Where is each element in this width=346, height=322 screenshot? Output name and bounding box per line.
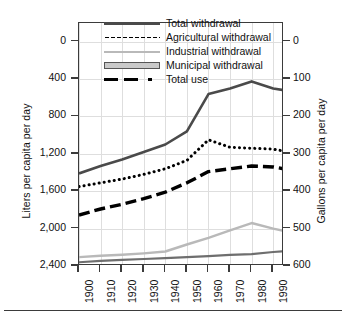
y-tick-label-right: 600 <box>293 258 311 270</box>
y-tick-mark <box>71 152 78 154</box>
series-line-industrial-withdrawal <box>79 223 283 257</box>
x-tick-mark <box>120 265 122 272</box>
legend-item: Agricultural withdrawal <box>104 31 271 44</box>
bottom-divider-rule <box>4 310 342 311</box>
x-tick-label: 1910 <box>105 280 117 303</box>
y-tick-mark <box>71 77 78 79</box>
y-tick-mark <box>71 189 78 191</box>
legend-swatch-filled-box-gray <box>104 60 160 71</box>
series-line-total-withdrawal <box>79 81 283 173</box>
legend-item: Total withdrawal <box>104 17 271 30</box>
legend-swatch-dashed-black <box>104 74 160 85</box>
legend-swatch-mark <box>104 62 160 69</box>
y-tick-label-left: 800 <box>10 108 66 120</box>
y-tick-label-left: 400 <box>10 71 66 83</box>
series-line-municipal-withdrawal <box>79 251 283 262</box>
x-tick-label: 1900 <box>83 280 95 303</box>
y-tick-label-right: 500 <box>293 221 311 233</box>
x-tick-mark <box>99 265 101 272</box>
y-tick-mark <box>71 227 78 229</box>
y-tick-label-right: 0 <box>293 34 299 46</box>
legend-swatch-mark <box>104 36 160 39</box>
y-tick-label-left: 0 <box>10 34 66 46</box>
x-tick-label: 1950 <box>191 280 203 303</box>
chart-figure: Liters per capita per day Gallons per ca… <box>0 0 346 322</box>
x-tick-label: 1980 <box>256 280 268 303</box>
y-tick-label-right: 300 <box>293 146 311 158</box>
legend-swatch-dotted-black <box>104 32 160 43</box>
x-tick-label: 1970 <box>234 280 246 303</box>
x-tick-mark <box>271 265 273 272</box>
legend-label: Agricultural withdrawal <box>166 32 271 43</box>
x-tick-mark <box>228 265 230 272</box>
legend-item: Municipal withdrawal <box>104 59 271 72</box>
chart-legend: Total withdrawalAgricultural withdrawalI… <box>104 17 271 86</box>
x-tick-mark <box>142 265 144 272</box>
legend-label: Municipal withdrawal <box>166 60 263 71</box>
y-tick-mark <box>283 189 290 191</box>
x-tick-label: 1990 <box>277 280 289 303</box>
x-tick-label: 1960 <box>212 280 224 303</box>
y-tick-mark <box>283 40 290 42</box>
y-tick-label-right: 200 <box>293 108 311 120</box>
y-tick-label-right: 400 <box>293 183 311 195</box>
legend-label: Total use <box>166 74 208 85</box>
y-tick-mark <box>71 40 78 42</box>
y-tick-label-left: 2,400 <box>10 258 66 270</box>
legend-swatch-solid-dark <box>104 18 160 29</box>
x-tick-label: 1940 <box>169 280 181 303</box>
series-line-total-use <box>79 166 283 215</box>
y-tick-mark <box>283 115 290 117</box>
x-tick-mark <box>164 265 166 272</box>
y-axis-right-title: Gallons per capita per day <box>315 86 327 236</box>
y-tick-mark <box>283 264 290 266</box>
y-tick-mark <box>283 227 290 229</box>
x-tick-label: 1920 <box>126 280 138 303</box>
y-tick-label-left: 2,000 <box>10 221 66 233</box>
y-tick-mark <box>283 152 290 154</box>
legend-label: Total withdrawal <box>166 18 241 29</box>
legend-swatch-mark <box>104 51 160 53</box>
legend-swatch-mark <box>104 22 160 25</box>
legend-swatch-solid-light-gray <box>104 46 160 57</box>
x-tick-mark <box>77 265 79 272</box>
x-tick-mark <box>185 265 187 272</box>
legend-item: Total use <box>104 73 271 86</box>
x-tick-mark <box>250 265 252 272</box>
x-tick-label: 1930 <box>148 280 160 303</box>
legend-label: Industrial withdrawal <box>166 46 261 57</box>
x-tick-mark <box>207 265 209 272</box>
y-tick-mark <box>71 115 78 117</box>
legend-item: Industrial withdrawal <box>104 45 271 58</box>
y-tick-mark <box>283 77 290 79</box>
y-tick-label-left: 1,200 <box>10 146 66 158</box>
y-tick-label-right: 100 <box>293 71 311 83</box>
legend-swatch-mark <box>104 78 160 81</box>
y-tick-label-left: 1,600 <box>10 183 66 195</box>
